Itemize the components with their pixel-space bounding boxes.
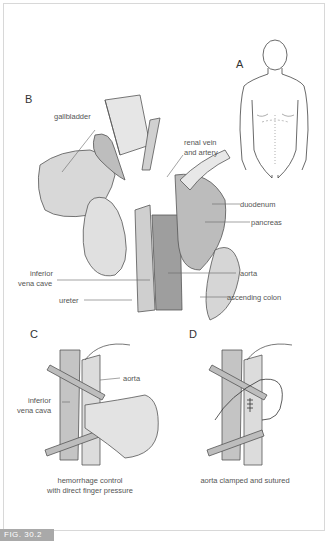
label-c-aorta: aorta (123, 374, 140, 383)
body-outline-icon (240, 40, 308, 178)
label-c-inferior: inferior (28, 396, 51, 405)
label-inferior: inferior (30, 269, 53, 278)
panel-c-letter: C (30, 328, 38, 340)
label-gallbladder: gallbladder (54, 112, 91, 121)
label-renal-artery: and artery (184, 148, 218, 157)
label-duodenum: duodenum (240, 200, 275, 209)
label-renal-vein: renal vein (184, 138, 217, 147)
label-pancreas: pancreas (251, 218, 282, 227)
label-vena-cave: vena cave (18, 279, 52, 288)
caption-c-line1: hemorrhage control (35, 476, 145, 486)
label-aorta: aorta (240, 269, 257, 278)
panel-c-vessels-drawing (45, 344, 158, 465)
label-ascending-colon: ascending colon (227, 293, 281, 302)
label-c-vena-cava: vena cava (17, 406, 51, 415)
caption-d: aorta clamped and sutured (190, 476, 300, 486)
panel-d-vessels-drawing (207, 344, 292, 465)
caption-c: hemorrhage control with direct finger pr… (35, 476, 145, 496)
panel-d-letter: D (189, 328, 197, 340)
panel-b-letter: B (25, 93, 32, 105)
label-ureter: ureter (59, 296, 79, 305)
caption-c-line2: with direct finger pressure (35, 486, 145, 496)
panel-a-letter: A (236, 58, 243, 70)
figure-number-label: FIG. 30.2 (0, 529, 54, 541)
abdominal-anatomy-drawing (38, 95, 240, 320)
